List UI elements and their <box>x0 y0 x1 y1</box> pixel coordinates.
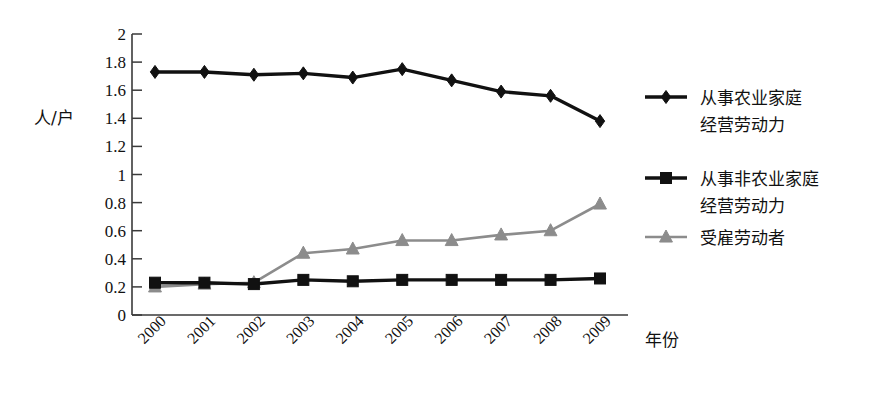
data-point-marker <box>496 274 507 285</box>
y-tick-label: 0 <box>118 306 127 325</box>
legend-label: 从事农业家庭 <box>700 88 802 108</box>
data-point-marker <box>397 274 408 285</box>
data-point-marker <box>595 273 606 284</box>
legend-label: 受雇劳动者 <box>700 228 785 248</box>
y-tick-label: 1.8 <box>105 53 126 72</box>
legend-label-line2: 经营劳动力 <box>700 115 785 135</box>
y-tick-label: 0.6 <box>105 222 126 241</box>
data-point-marker <box>199 277 210 288</box>
data-point-marker <box>446 274 457 285</box>
y-axis-title: 人/户 <box>34 108 74 128</box>
y-tick-label: 1.6 <box>105 81 126 100</box>
x-axis-title: 年份 <box>645 330 679 350</box>
chart-figure: 00.20.40.60.811.21.41.61.82 人/户 20002001… <box>0 0 880 395</box>
data-point-marker <box>298 274 309 285</box>
y-tick-label: 1.4 <box>105 109 127 128</box>
data-point-marker <box>347 276 358 287</box>
y-tick-label: 1 <box>118 166 127 185</box>
data-point-marker <box>150 277 161 288</box>
y-tick-label: 0.8 <box>105 194 126 213</box>
data-point-marker <box>248 279 259 290</box>
y-tick-label: 1.2 <box>105 137 126 156</box>
y-tick-label: 0.2 <box>105 278 126 297</box>
line-chart-svg: 00.20.40.60.811.21.41.61.82 人/户 20002001… <box>0 0 880 395</box>
legend-label: 从事非农业家庭 <box>700 169 819 189</box>
legend-label-line2: 经营劳动力 <box>700 196 785 216</box>
data-point-marker <box>661 173 672 184</box>
y-tick-label: 0.4 <box>105 250 127 269</box>
y-tick-label: 2 <box>118 25 127 44</box>
data-point-marker <box>545 274 556 285</box>
